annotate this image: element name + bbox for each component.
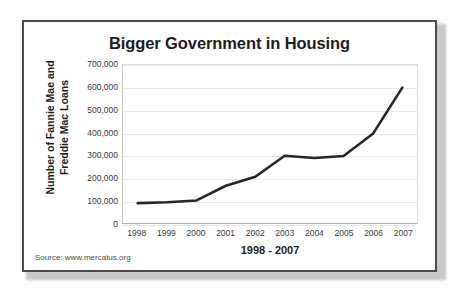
chart-figure: Bigger Government in Housing Number of F… — [22, 20, 437, 272]
plot-wrapper: 0100,000200,000300,000400,000500,000600,… — [122, 64, 418, 224]
y-axis-title: Number of Fannie Mae and Freddie Mac Loa… — [44, 43, 71, 213]
plot-area — [122, 64, 418, 224]
y-axis-title-line-1: Number of Fannie Mae and — [44, 43, 58, 213]
y-axis-tick-label: 400,000 — [74, 128, 118, 138]
y-axis-title-line-2: Freddie Mac Loans — [57, 43, 71, 213]
scanned-page: Bigger Government in Housing Number of F… — [0, 0, 466, 300]
y-axis-tick-label: 700,000 — [74, 59, 118, 69]
y-axis-tick-label: 600,000 — [74, 82, 118, 92]
x-axis-title: 1998 - 2007 — [122, 244, 418, 256]
y-axis-tick-label: 0 — [74, 219, 118, 229]
y-axis-tick-label: 100,000 — [74, 196, 118, 206]
line-series — [123, 65, 417, 223]
y-axis-tick-label: 200,000 — [74, 173, 118, 183]
y-axis-tick-label: 500,000 — [74, 105, 118, 115]
series-polyline — [138, 88, 403, 204]
source-note: Source: www.mercatus.org — [35, 253, 131, 262]
gridline — [123, 225, 417, 226]
chart-title: Bigger Government in Housing — [24, 34, 435, 53]
y-axis-tick-labels: 0100,000200,000300,000400,000500,000600,… — [74, 64, 118, 224]
x-axis-tick-labels: 1998199920002001200220032004200520062007 — [122, 228, 418, 244]
y-axis-tick-label: 300,000 — [74, 150, 118, 160]
x-axis-tick-label: 2007 — [386, 228, 420, 238]
